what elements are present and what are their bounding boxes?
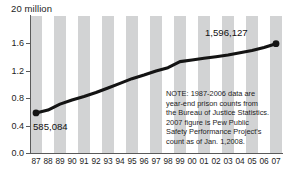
prison-population-chart: 20 million 0.00.40.81.21.6 8788899091929…	[0, 0, 286, 172]
chart-note: NOTE: 1987-2006 data are year-end prison…	[166, 89, 282, 147]
series-point-marker	[273, 40, 280, 47]
note-line-6: count as of Jan. 1,2008.	[166, 137, 282, 147]
data-label-end: 1,596,127	[205, 27, 248, 38]
data-label-start: 585,084	[33, 121, 68, 132]
note-line-5: Safety Performance Project's	[166, 127, 282, 137]
note-line-3: the Bureau of Justice Statistics.	[166, 108, 282, 118]
note-line-4: 2007 figure is Pew Public	[166, 118, 282, 128]
note-line-2: year-end prison counts from	[166, 99, 282, 109]
note-line-1: NOTE: 1987-2006 data are	[166, 89, 282, 99]
series-point-marker	[33, 110, 40, 117]
